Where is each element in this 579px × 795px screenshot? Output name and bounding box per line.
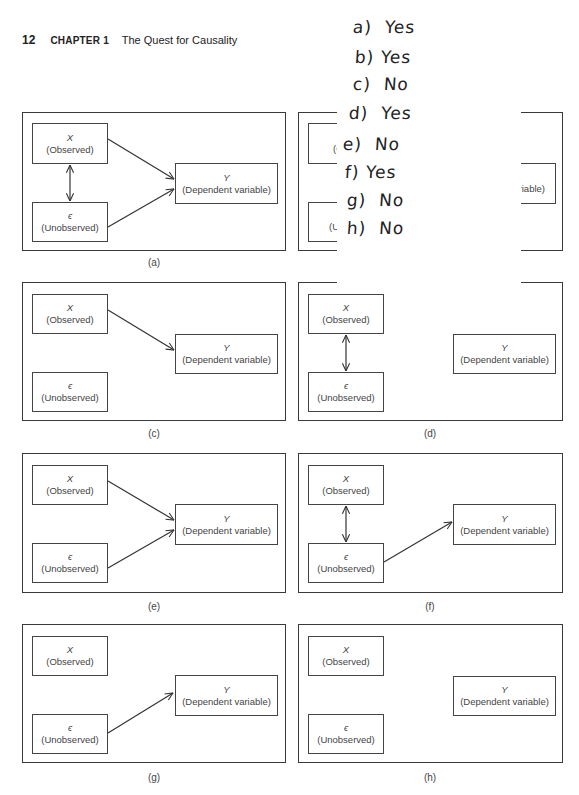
answer-e: e) No — [342, 134, 400, 154]
arrow-epsilon-to-y — [384, 522, 452, 562]
arrows-layer — [299, 283, 564, 422]
caption-h: (h) — [410, 772, 450, 783]
arrow-epsilon-to-y — [108, 693, 173, 733]
page-number: 12 — [22, 33, 35, 47]
handwritten-answer-note: a) Yes b) Yes c) No d) Yes e) No f) Yes … — [337, 7, 521, 283]
epsilon-description: (Unobserved) — [309, 734, 383, 746]
arrows-layer — [23, 113, 287, 252]
arrow-x-to-y — [108, 139, 174, 179]
arrows-layer — [23, 454, 287, 594]
y-symbol: Y — [454, 684, 555, 696]
diagram-panel-g: X (Observed) ϵ (Unobserved) Y (Dependent… — [22, 624, 286, 763]
chapter-label: CHAPTER 1 — [50, 35, 108, 46]
arrow-epsilon-to-y — [108, 189, 174, 227]
arrow-x-to-y — [108, 310, 174, 350]
diagram-panel-e: X (Observed) ϵ (Unobserved) Y (Dependent… — [22, 453, 286, 593]
arrows-layer — [23, 625, 287, 764]
arrows-layer — [299, 454, 564, 594]
caption-e: (e) — [134, 601, 174, 612]
y-description: (Dependent variable) — [454, 696, 555, 708]
answer-f: f) Yes — [344, 162, 397, 182]
diagram-panel-h: X (Observed) ϵ (Unobserved) Y (Dependent… — [298, 624, 563, 763]
x-description: (Observed) — [309, 656, 383, 668]
answer-h: h) No — [346, 218, 405, 238]
answer-b: b) Yes — [354, 47, 412, 67]
node-x-observed: X (Observed) — [308, 636, 384, 676]
running-header: 12 CHAPTER 1 The Quest for Causality — [22, 33, 237, 47]
diagram-panel-c: X (Observed) ϵ (Unobserved) Y (Dependent… — [22, 282, 286, 421]
caption-g: (g) — [134, 772, 174, 783]
caption-c: (c) — [134, 428, 174, 439]
diagram-panel-f: X (Observed) ϵ (Unobserved) Y (Dependent… — [298, 453, 563, 593]
answer-a: a) Yes — [352, 17, 416, 37]
caption-f: (f) — [410, 601, 450, 612]
chapter-title: The Quest for Causality — [122, 34, 238, 46]
epsilon-symbol: ϵ — [309, 722, 383, 734]
node-y-dependent: Y (Dependent variable) — [453, 676, 556, 716]
answer-d: d) Yes — [348, 103, 412, 123]
diagram-panel-a: X (Observed) ϵ (Unobserved) Y (Dependent… — [22, 112, 286, 251]
x-symbol: X — [309, 644, 383, 656]
answer-g: g) No — [346, 190, 405, 210]
arrow-epsilon-to-y — [108, 530, 174, 568]
arrow-x-to-y — [108, 481, 174, 520]
node-epsilon-unobserved: ϵ (Unobserved) — [308, 714, 384, 754]
arrows-layer — [23, 283, 287, 422]
diagram-panel-d: X (Observed) ϵ (Unobserved) Y (Dependent… — [298, 282, 563, 421]
caption-a: (a) — [134, 257, 174, 268]
caption-d: (d) — [410, 428, 450, 439]
answer-c: c) No — [352, 74, 409, 94]
